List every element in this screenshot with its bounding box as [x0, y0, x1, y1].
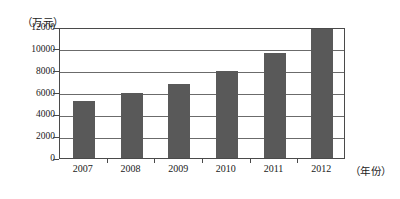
y-axis-tick-label: 6000 [9, 89, 55, 99]
x-axis-minor-tick [154, 159, 155, 163]
gridline [60, 116, 344, 117]
y-axis-tick-label: 10000 [9, 45, 55, 55]
x-axis-minor-tick [250, 159, 251, 163]
plot-area [59, 28, 345, 159]
x-axis-tick-label-2007: 2007 [73, 163, 93, 174]
bar-2010 [216, 71, 238, 158]
gridline [60, 72, 344, 73]
bar-2011 [264, 53, 286, 158]
bar-chart-figure: （万元） （年份） 120001000080006000400020000 20… [0, 0, 400, 199]
y-axis-tick-label: 12000 [9, 23, 55, 33]
gridline [60, 50, 344, 51]
gridline [60, 94, 344, 95]
x-axis-minor-tick [297, 159, 298, 163]
bar-2008 [121, 93, 143, 159]
x-axis-unit-label: （年份） [350, 163, 391, 178]
y-axis-tick-label: 0 [9, 154, 55, 164]
y-axis-tick-label: 2000 [9, 132, 55, 142]
x-axis-minor-tick [107, 159, 108, 163]
bar-2009 [168, 84, 190, 158]
bar-2012 [311, 29, 333, 158]
x-axis-tick-label-2008: 2008 [121, 163, 141, 174]
x-axis-minor-tick [202, 159, 203, 163]
bar-2007 [73, 101, 95, 158]
x-axis-tick-label-2009: 2009 [168, 163, 188, 174]
y-axis-tick-label: 8000 [9, 67, 55, 77]
y-axis-tick-label: 4000 [9, 111, 55, 121]
x-axis-tick-label-2010: 2010 [216, 163, 236, 174]
gridline [60, 138, 344, 139]
x-axis-tick-label-2012: 2012 [311, 163, 331, 174]
x-axis-tick-label-2011: 2011 [264, 163, 284, 174]
